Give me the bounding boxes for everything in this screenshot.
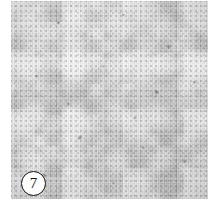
figure-panel: 7 (0, 0, 216, 209)
panel-label-circle: 7 (21, 171, 46, 196)
panel-label-number: 7 (30, 176, 38, 191)
texture-vignette (11, 1, 208, 199)
specimen-micrograph-image (11, 1, 208, 199)
